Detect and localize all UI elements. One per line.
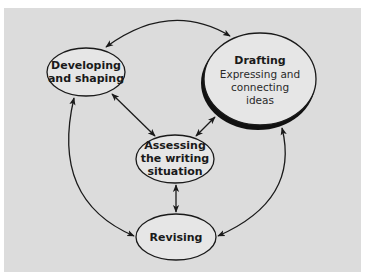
revising-title: Revising xyxy=(136,231,216,244)
node-drafting-label: Drafting Expressing and connecting ideas xyxy=(204,54,316,107)
developing-line1: Developing xyxy=(46,59,126,72)
node-revising-label: Revising xyxy=(136,231,216,244)
drafting-title: Drafting xyxy=(204,54,316,67)
node-developing-label: Developing and shaping xyxy=(46,59,126,85)
node-assessing-label: Assessing the writing situation xyxy=(135,139,215,178)
assessing-line2: the writing xyxy=(135,152,215,165)
drafting-sub-line1: Expressing and xyxy=(204,68,316,81)
arrow-developing-drafting xyxy=(106,20,230,47)
assessing-line1: Assessing xyxy=(135,139,215,152)
drafting-sub-line3: ideas xyxy=(204,94,316,107)
drafting-sub-line2: connecting xyxy=(204,81,316,94)
arrow-drafting-revising xyxy=(218,128,285,236)
developing-line2: and shaping xyxy=(46,72,126,85)
arrow-drafting-assessing xyxy=(196,117,215,136)
arrow-developing-assessing xyxy=(112,94,155,136)
arrow-developing-revising xyxy=(69,98,134,236)
assessing-line3: situation xyxy=(135,165,215,178)
